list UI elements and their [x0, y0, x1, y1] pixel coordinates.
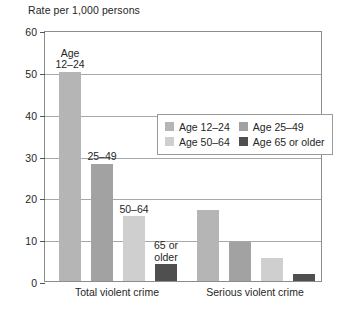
bar: [229, 242, 251, 281]
legend-item-age-50-64: Age 50–64: [165, 136, 230, 148]
bar-annotation: 25–49: [87, 151, 116, 163]
y-axis-tick-label: 30: [25, 152, 37, 164]
bar: [91, 164, 113, 281]
legend-swatch-age-50-64: [165, 137, 174, 146]
legend-swatch-age-65-or-older: [239, 137, 248, 146]
y-axis-tick-label: 40: [25, 110, 37, 122]
legend-label-age-50-64: Age 50–64: [179, 136, 230, 148]
legend-label-age-25-49: Age 25–49: [253, 121, 304, 133]
y-axis-tick-label: 60: [25, 26, 37, 38]
legend-row: Age 12–24 Age 25–49: [165, 119, 325, 134]
legend-row: Age 50–64 Age 65 or older: [165, 134, 325, 149]
bar-annotation: 65 or older: [154, 240, 178, 263]
bar: [155, 264, 177, 281]
bar: [197, 210, 219, 281]
legend-item-age-65-or-older: Age 65 or older: [239, 136, 325, 148]
bar: [59, 72, 81, 281]
legend-item-age-25-49: Age 25–49: [239, 121, 304, 133]
tick-mark: [40, 283, 45, 284]
legend-swatch-age-25-49: [239, 122, 248, 131]
bar-chart: Rate per 1,000 persons 0102030405060 Age…: [0, 0, 346, 314]
y-axis-tick-label: 10: [25, 235, 37, 247]
y-axis-tick-label: 0: [31, 277, 37, 289]
bar: [293, 274, 315, 281]
bar-annotation: 50–64: [119, 204, 148, 216]
legend-item-age-12-24: Age 12–24: [165, 121, 230, 133]
legend-label-age-12-24: Age 12–24: [179, 121, 230, 133]
bar: [261, 258, 283, 281]
bar-annotation: Age 12–24: [55, 48, 84, 71]
plot-area: 0102030405060 Age 12–2425–4950–6465 or o…: [44, 31, 322, 282]
bar: [123, 216, 145, 281]
y-axis-title: Rate per 1,000 persons: [28, 4, 140, 16]
legend-swatch-age-12-24: [165, 122, 174, 131]
y-axis-tick-label: 50: [25, 68, 37, 80]
bars-layer: [45, 32, 321, 281]
legend-label-age-65-or-older: Age 65 or older: [253, 136, 325, 148]
y-axis-tick-label: 20: [25, 193, 37, 205]
x-axis-label: Total violent crime: [75, 286, 159, 298]
x-axis-label: Serious violent crime: [206, 286, 303, 298]
legend: Age 12–24 Age 25–49 Age 50–64 Age 65 or …: [157, 114, 333, 155]
